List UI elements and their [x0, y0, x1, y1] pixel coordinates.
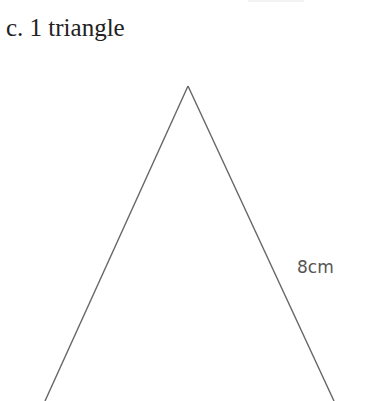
side-length-label: 8cm — [297, 259, 334, 276]
triangle-left-side — [45, 86, 188, 401]
triangle-diagram — [0, 0, 367, 401]
triangle-right-side — [188, 86, 334, 401]
